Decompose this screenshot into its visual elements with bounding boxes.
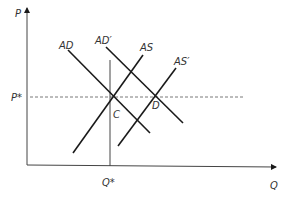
point-c-label: C <box>113 109 120 120</box>
quantity-label: Q* <box>102 177 115 188</box>
as-prime-label: AS′ <box>173 56 190 67</box>
as-label: AS <box>139 42 154 53</box>
as-curve <box>73 55 143 153</box>
ad-prime-label: AD′ <box>94 35 113 46</box>
as-ad-diagram: P Q P* Q* AD AD′ AS AS′ C D <box>0 0 287 198</box>
x-axis <box>27 165 276 167</box>
ad-label: AD <box>58 40 74 51</box>
y-axis-label: P <box>15 8 22 19</box>
price-label: P* <box>11 92 22 103</box>
point-d-label: D <box>152 100 160 111</box>
x-axis-label: Q <box>270 180 278 191</box>
